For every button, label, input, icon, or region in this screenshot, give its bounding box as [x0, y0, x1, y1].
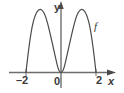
y-axis-label: y [54, 2, 60, 13]
x-tick-label-2: 2 [96, 75, 102, 86]
x-tick-label-minus-2: –2 [16, 75, 28, 86]
origin-label: 0 [54, 76, 60, 87]
function-graph-figure: y x 0 –2 2 f [0, 0, 124, 93]
x-axis-label: x [108, 76, 114, 87]
curve-label-f: f [94, 21, 97, 32]
